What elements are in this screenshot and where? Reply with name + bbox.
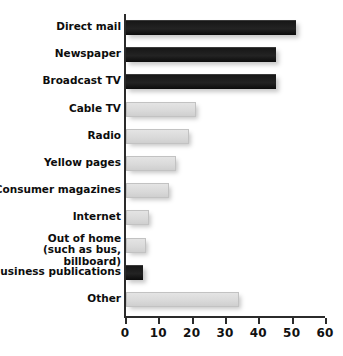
chart-row: Internet [0,206,343,232]
bar [126,183,169,198]
bar-wrapper [126,74,276,89]
bar-wrapper [126,210,149,225]
bar [126,20,296,35]
bar-wrapper [126,265,143,280]
bar [126,47,276,62]
category-label: Business publications [0,266,121,278]
x-axis-tick-label: 50 [277,326,307,340]
x-axis-tick [292,318,294,324]
chart-row: Out of home (such as bus, billboard) [0,234,343,260]
category-label: Internet [0,211,121,223]
bar [126,156,176,171]
category-label: Newspaper [0,48,121,60]
bar-wrapper [126,102,196,117]
bar [126,210,149,225]
chart-row: Cable TV [0,98,343,124]
bar-wrapper [126,183,169,198]
bar-wrapper [126,20,296,35]
x-axis-tick-label: 10 [143,326,173,340]
x-axis-tick-label: 60 [310,326,340,340]
bar [126,238,146,253]
bar-wrapper [126,292,239,307]
category-label: Other [0,293,121,305]
bar-wrapper [126,156,176,171]
bar [126,74,276,89]
chart-row: Broadcast TV [0,70,343,96]
bar-wrapper [126,238,146,253]
bar-chart: 0102030405060 Direct mailNewspaperBroadc… [0,0,343,356]
category-label: Radio [0,130,121,142]
chart-row: Yellow pages [0,152,343,178]
bar [126,265,143,280]
bar [126,102,196,117]
x-axis-tick [325,318,327,324]
x-axis-tick-label: 30 [210,326,240,340]
x-axis-tick [258,318,260,324]
chart-row: Radio [0,125,343,151]
x-axis-tick-label: 40 [243,326,273,340]
chart-row: Other [0,288,343,314]
category-label: Direct mail [0,21,121,33]
category-label: Broadcast TV [0,75,121,87]
bar [126,129,189,144]
chart-row: Direct mail [0,16,343,42]
category-label: Consumer magazines [0,184,121,196]
x-axis-tick [158,318,160,324]
x-axis-tick-label: 0 [110,326,140,340]
bar [126,292,239,307]
bar-wrapper [126,129,189,144]
chart-row: Business publications [0,261,343,287]
x-axis-tick [225,318,227,324]
x-axis-tick [125,318,127,324]
x-axis-tick-label: 20 [177,326,207,340]
category-label: Cable TV [0,103,121,115]
chart-row: Consumer magazines [0,179,343,205]
x-axis-tick [192,318,194,324]
category-label: Yellow pages [0,157,121,169]
chart-row: Newspaper [0,43,343,69]
bar-wrapper [126,47,276,62]
plot-area: 0102030405060 Direct mailNewspaperBroadc… [0,0,343,356]
